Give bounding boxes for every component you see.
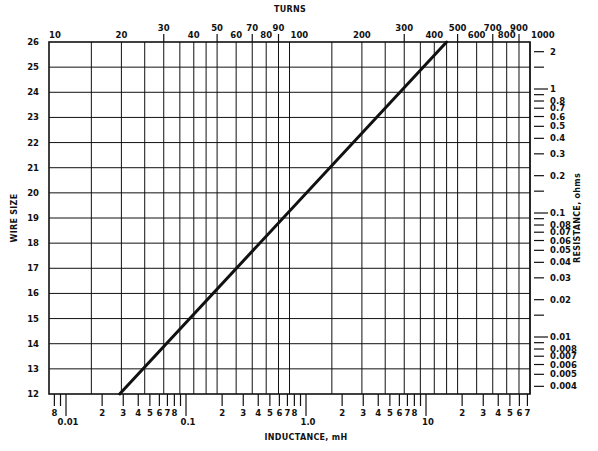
wire-size-label: 14 [27,339,39,349]
top-tick-label: 40 [188,30,200,40]
inductance-minor-label: 4 [255,408,261,418]
inductance-minor-label: 4 [495,408,501,418]
tick-labels: 1020304050607080901002003004005006007008… [27,23,577,427]
resistance-label: 0.04 [550,257,571,267]
wire-size-label: 16 [27,288,39,298]
resistance-label: 0.4 [550,133,565,143]
inductance-minor-label: 2 [99,408,105,418]
wire-size-label: 17 [27,263,39,273]
resistance-label: 0.3 [550,149,565,159]
inductance-minor-label: 5 [267,408,273,418]
right-axis-title: RESISTANCE, ohms [573,173,582,263]
resistance-label: 0.03 [550,273,571,283]
inductance-major-label: 10 [422,417,434,427]
wire-size-label: 22 [27,138,39,148]
inductance-minor-label: 7 [524,408,530,418]
top-tick-label: 80 [260,30,272,40]
bottom-axis-title: INDUCTANCE, mH [265,433,348,442]
top-tick-label: 400 [425,30,443,40]
wire-size-label: 21 [27,163,39,173]
top-tick-label: 30 [158,23,170,33]
wire-size-label: 12 [27,389,39,399]
inductance-minor-label: 7 [164,408,170,418]
resistance-label: 0.6 [550,112,565,122]
top-tick-label: 90 [273,23,285,33]
wire-size-label: 20 [27,188,39,198]
wire-size-label: 24 [27,87,39,97]
inductance-minor-label: 6 [396,408,402,418]
inductance-minor-label: 3 [480,408,486,418]
resistance-label: 2 [550,47,556,57]
wire-size-label: 15 [27,314,39,324]
top-tick-label: 900 [510,23,528,33]
resistance-label: 0.5 [550,121,565,131]
inductance-nomograph: 1020304050607080901002003004005006007008… [0,0,598,451]
inductance-minor-label: 8 [411,408,417,418]
wire-size-label: 13 [27,364,39,374]
inductance-major-label: 0.01 [58,417,79,427]
top-tick-label: 10 [49,30,61,40]
resistance-label: 0.02 [550,295,571,305]
top-tick-label: 20 [115,30,127,40]
resistance-label: 1 [550,84,556,94]
top-tick-label: 60 [230,30,242,40]
inductance-minor-label: 2 [219,408,225,418]
inductance-minor-label: 8 [291,408,297,418]
wire-size-label: 18 [27,238,39,248]
inductance-minor-label: 2 [459,408,465,418]
wire-size-label: 26 [27,37,39,47]
top-axis-title: TURNS [274,5,306,14]
inductance-minor-label: 6 [156,408,162,418]
top-tick-label: 300 [395,23,413,33]
resistance-label: 0.01 [550,332,571,342]
inductance-minor-label: 6 [516,408,522,418]
inductance-minor-label: 5 [507,408,513,418]
inductance-minor-label: 3 [360,408,366,418]
inductance-minor-label: 3 [120,408,126,418]
resistance-label: 0.05 [550,245,571,255]
wire-size-label: 19 [27,213,39,223]
resistance-label: 0.1 [550,208,565,218]
resistance-label: 0.006 [550,360,577,370]
resistance-label: 0.2 [550,171,565,181]
inductance-minor-label: 4 [375,408,381,418]
top-tick-label: 200 [353,30,371,40]
top-tick-label: 500 [449,23,467,33]
inductance-minor-label: 7 [404,408,410,418]
top-tick-label: 100 [291,30,309,40]
inductance-minor-label: 5 [147,408,153,418]
inductance-minor-label: 6 [276,408,282,418]
inductance-minor-label: 3 [240,408,246,418]
top-tick-label: 50 [211,23,223,33]
inductance-minor-label: 7 [284,408,290,418]
inductance-minor-label: 4 [135,408,141,418]
resistance-label: 0.004 [550,381,577,391]
inductance-minor-label: 5 [387,408,393,418]
left-axis-title: WIRE SIZE [10,194,19,243]
axis-ticks [54,34,548,416]
inductance-major-label: 1.0 [300,417,315,427]
wire-size-label: 23 [27,112,39,122]
inductance-minor-label: 8 [51,408,57,418]
top-tick-label: 70 [246,23,258,33]
wire-size-label: 25 [27,62,39,72]
inductance-major-label: 0.1 [180,417,195,427]
grid-lines [49,42,530,394]
top-tick-label: 1000 [531,30,555,40]
inductance-minor-label: 8 [171,408,177,418]
resistance-label: 0.005 [550,369,577,379]
resistance-label: 0.06 [550,236,571,246]
inductance-minor-label: 2 [339,408,345,418]
